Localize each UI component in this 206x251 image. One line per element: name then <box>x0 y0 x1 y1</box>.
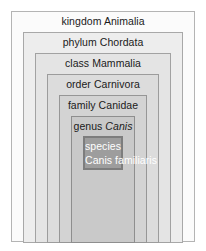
taxonomy-level-class: class Mammalia order Carnivora family Ca… <box>35 53 171 243</box>
taxonomy-level-order: order Carnivora family Canidae genus Can… <box>47 74 159 243</box>
taxonomy-level-kingdom: kingdom Animalia phylum Chordata class M… <box>11 11 195 242</box>
rank-kingdom: kingdom <box>61 15 101 27</box>
taxonomy-label-family: family Canidae <box>60 98 146 113</box>
taxonomy-level-phylum: phylum Chordata class Mammalia order Car… <box>23 32 183 243</box>
taxon-phylum: Chordata <box>100 36 144 48</box>
taxonomy-level-family: family Canidae genus Canis species Canis… <box>59 95 147 243</box>
taxonomy-label-genus: genus Canis <box>72 119 134 134</box>
taxonomy-diagram: kingdom Animalia phylum Chordata class M… <box>0 0 206 251</box>
taxonomy-label-order: order Carnivora <box>48 77 158 92</box>
rank-genus: genus <box>74 120 103 132</box>
taxon-order: Carnivora <box>94 78 140 90</box>
rank-family: family <box>68 99 96 111</box>
taxon-species: Canis familiaris <box>85 153 121 167</box>
taxonomy-label-kingdom: kingdom Animalia <box>12 14 194 29</box>
taxon-family: Canidae <box>99 99 138 111</box>
taxonomy-label-phylum: phylum Chordata <box>24 35 182 50</box>
taxonomy-level-genus: genus Canis species Canis familiaris <box>71 116 135 243</box>
taxonomy-label-class: class Mammalia <box>36 56 170 71</box>
taxon-kingdom: Animalia <box>104 15 145 27</box>
taxon-class: Mammalia <box>92 57 141 69</box>
taxonomy-label-species-rank: species <box>85 139 121 153</box>
rank-phylum: phylum <box>63 36 97 48</box>
taxonomy-level-species: species Canis familiaris <box>83 136 123 170</box>
taxon-genus: Canis <box>105 120 132 132</box>
rank-order: order <box>66 78 91 90</box>
rank-class: class <box>65 57 89 69</box>
